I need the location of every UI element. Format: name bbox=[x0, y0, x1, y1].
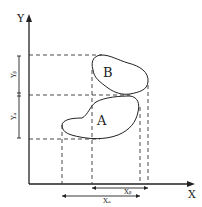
x-a-arrow-right-icon bbox=[136, 194, 140, 198]
x-axis-label: X bbox=[188, 188, 196, 201]
x-a-dimension-label: Xₐ bbox=[103, 197, 111, 205]
diagram: Y X B A Yᵦ Yₐ Xᵦ Xₐ bbox=[0, 0, 202, 207]
x-b-arrow-left-icon bbox=[92, 186, 96, 190]
region-a-label: A bbox=[96, 113, 107, 128]
axes bbox=[29, 18, 192, 184]
y-axis-label: Y bbox=[16, 12, 25, 25]
projection-lines bbox=[29, 55, 148, 184]
x-b-dimension-label: Xᵦ bbox=[124, 188, 132, 196]
x-a-arrow-left-icon bbox=[62, 194, 66, 198]
y-dimension-lines bbox=[17, 56, 21, 138]
y-a-dimension-label: Yₐ bbox=[10, 112, 18, 121]
diagram-canvas: Y X B A Yᵦ Yₐ Xᵦ Xₐ bbox=[0, 0, 202, 207]
x-b-arrow-right-icon bbox=[144, 186, 148, 190]
y-b-dimension-label: Yᵦ bbox=[10, 70, 18, 79]
region-b-label: B bbox=[103, 65, 113, 80]
region-b-shape bbox=[92, 55, 148, 94]
x-axis-arrow-icon bbox=[187, 181, 195, 187]
x-dimension-lines bbox=[62, 188, 148, 196]
y-axis-arrow-icon bbox=[26, 14, 32, 22]
